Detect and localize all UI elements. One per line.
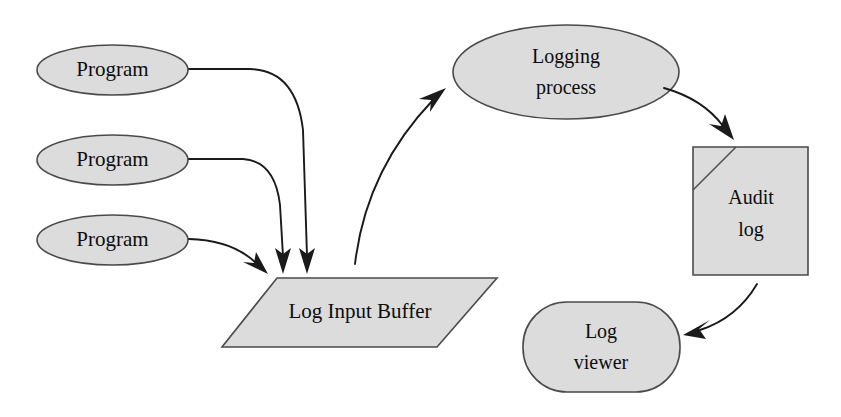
edge-audit-log-arrowhead bbox=[683, 320, 710, 339]
edge-program3-line bbox=[189, 239, 256, 263]
edge-buffer-to-logging-process bbox=[355, 88, 446, 264]
program-3-label: Program bbox=[76, 227, 148, 251]
edge-program3-to-buffer bbox=[189, 239, 268, 274]
node-program-3[interactable]: Program bbox=[37, 215, 188, 265]
audit-log-box bbox=[693, 147, 808, 275]
edge-logging-process-to-audit-log bbox=[664, 88, 734, 140]
diagram-canvas: Program Program Program bbox=[0, 0, 841, 417]
edge-program2-to-buffer bbox=[189, 159, 291, 274]
audit-logging-flow-diagram: Program Program Program bbox=[0, 0, 841, 417]
edge-audit-log-to-log-viewer bbox=[683, 284, 757, 339]
edge-audit-log-line bbox=[700, 284, 757, 330]
log-input-buffer-label: Log Input Buffer bbox=[288, 299, 431, 323]
log-viewer-label-line1: Log bbox=[585, 320, 617, 343]
node-audit-log[interactable]: Audit log bbox=[693, 147, 808, 275]
edge-logging-line bbox=[664, 88, 723, 126]
audit-log-label-line1: Audit bbox=[728, 186, 774, 208]
edge-program1-to-buffer bbox=[189, 69, 315, 274]
logging-process-label-line2: process bbox=[536, 76, 596, 99]
logging-process-ellipse bbox=[453, 25, 679, 119]
node-logging-process[interactable]: Logging process bbox=[453, 25, 679, 119]
edge-program2-line bbox=[189, 159, 283, 256]
node-log-input-buffer[interactable]: Log Input Buffer bbox=[222, 278, 497, 347]
log-viewer-label-line2: viewer bbox=[574, 351, 629, 373]
audit-log-label-line2: log bbox=[738, 218, 764, 241]
node-program-1[interactable]: Program bbox=[37, 45, 188, 95]
program-2-label: Program bbox=[76, 147, 148, 171]
node-program-2[interactable]: Program bbox=[37, 135, 188, 185]
log-viewer-rounded-rect bbox=[523, 302, 680, 392]
program-1-label: Program bbox=[76, 57, 148, 81]
node-log-viewer[interactable]: Log viewer bbox=[523, 302, 680, 392]
edge-program1-line bbox=[189, 69, 307, 256]
logging-process-label-line1: Logging bbox=[532, 45, 600, 68]
edge-buffer-line bbox=[355, 100, 433, 264]
edge-buffer-arrowhead bbox=[419, 88, 446, 112]
edge-logging-arrowhead bbox=[709, 114, 734, 140]
